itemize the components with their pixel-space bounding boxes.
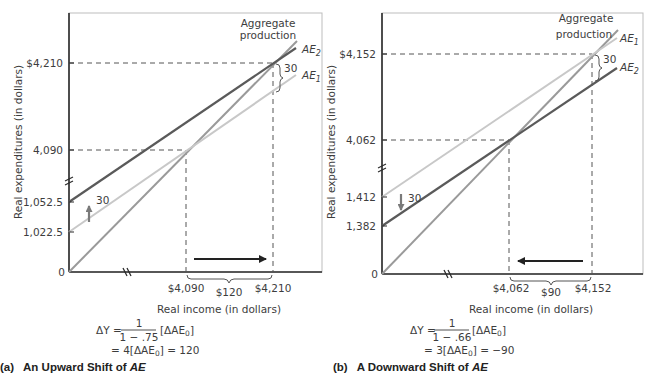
svg-text:1: 1	[136, 317, 143, 329]
panel-b-ae1-line	[382, 38, 617, 197]
panel-a-aggregate-production-line	[69, 41, 297, 272]
panel-b-shift-label: 30	[408, 192, 421, 204]
panel-b-ytick-1382: 1,382	[346, 220, 376, 232]
panel-b-xtick-4062: $4,062	[493, 282, 530, 294]
figure-canvas: $4,210 4,090 1,052.5 1,022.5 0 Real expe…	[0, 0, 655, 388]
svg-text:= 4[ΔAE0] = 120: = 4[ΔAE0] = 120	[111, 344, 199, 358]
panel-b-aggregate-label-line2: production	[556, 28, 612, 40]
svg-text:[ΔAE0]: [ΔAE0]	[472, 324, 506, 338]
panel-b-gap-label: 30	[603, 53, 616, 65]
panel-a-ytick-1022: 1,022.5	[23, 226, 63, 238]
panel-a-ae1-label: AE1	[301, 69, 321, 84]
panel-a-ae2-line	[69, 48, 296, 202]
panel-b-xtick-4152: $4,152	[575, 282, 612, 294]
panel-a-y-axis-label: Real expenditures (in dollars)	[12, 65, 24, 219]
panel-a-xtick-4090: $4,090	[168, 282, 205, 294]
panel-b-ytick-1412: 1,412	[346, 191, 376, 203]
svg-text:1 − .75: 1 − .75	[120, 331, 159, 343]
svg-text:1 − .66: 1 − .66	[433, 331, 472, 343]
svg-text:[ΔAE0]: [ΔAE0]	[160, 324, 194, 338]
panel-a-chart: $4,210 4,090 1,052.5 1,022.5 0 Real expe…	[0, 13, 322, 373]
panel-a-aggregate-label-line1: Aggregate	[241, 17, 296, 29]
panel-a-xtick-4210: $4,210	[255, 282, 292, 294]
panel-b-x-axis-label: Real income (in dollars)	[469, 303, 593, 315]
panel-a-gap-label: 30	[284, 62, 297, 74]
panel-b-caption: (b)A Downward Shift of AE	[333, 361, 488, 373]
panel-a-caption: (a)An Upward Shift of AE	[0, 361, 146, 373]
panel-a-x-change-label: $120	[216, 286, 243, 298]
panel-a-ae1-line	[69, 75, 296, 232]
panel-a-equation: ΔY = 1 1 − .75 [ΔAE0] = 4[ΔAE0] = 120	[96, 317, 199, 358]
panel-a-ytick-0: 0	[58, 266, 65, 278]
panel-a-ae2-label: AE2	[301, 43, 321, 58]
svg-text:= 3[ΔAE0] = −90: = 3[ΔAE0] = −90	[424, 344, 514, 358]
panel-b-gap-brace-icon	[595, 55, 602, 81]
panel-b-ytick-4152: $4,152	[339, 48, 376, 60]
panel-a-ytick-4210: $4,210	[26, 57, 63, 69]
panel-a-shift-label: 30	[96, 194, 109, 206]
panel-b-ae1-label: AE1	[619, 32, 639, 47]
panel-b-aggregate-label-line1: Aggregate	[559, 12, 614, 24]
panel-b-equation: ΔY = 1 1 − .66 [ΔAE0] = 3[ΔAE0] = −90	[410, 317, 514, 358]
panel-b-chart: $4,152 4,062 1,412 1,382 0 Real expendit…	[325, 12, 643, 373]
svg-text:ΔY =: ΔY =	[96, 324, 122, 336]
panel-a-ytick-4090: 4,090	[33, 144, 63, 156]
panel-a-x-axis-label: Real income (in dollars)	[157, 303, 281, 315]
panel-b-y-axis-label: Real expenditures (in dollars)	[325, 65, 337, 219]
panel-b-ytick-0: 0	[371, 268, 378, 280]
panel-b-x-change-label: $90	[541, 286, 561, 298]
panel-b-ae2-label: AE2	[619, 61, 639, 76]
panel-b-ytick-4062: 4,062	[346, 134, 376, 146]
panel-b-aggregate-production-line	[382, 30, 618, 274]
svg-text:1: 1	[449, 317, 456, 329]
panel-a-aggregate-label-line2: production	[240, 29, 296, 41]
panel-a-ytick-1052: 1,052.5	[23, 196, 63, 208]
